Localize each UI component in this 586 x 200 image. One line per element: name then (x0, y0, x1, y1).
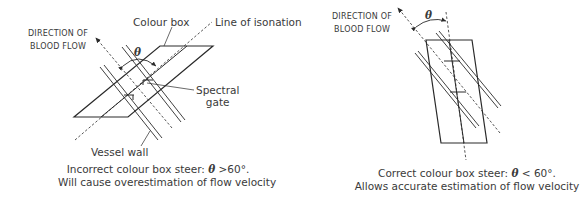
left-diagram (74, 22, 213, 146)
caption-incorrect: Incorrect colour box steer: θ >60°. Will… (58, 163, 258, 189)
direction-label-left: Direction of blood flow (28, 27, 88, 53)
theta-symbol-right: θ (425, 9, 432, 21)
theta-symbol-left: θ (134, 46, 141, 58)
right-diagram (398, 8, 501, 160)
vessel-wall-label: Vessel wall (91, 146, 148, 158)
direction-label-right: Direction of blood flow (332, 10, 392, 36)
spectral-gate-label: Spectral gate (196, 84, 239, 108)
isonation-label: Line of isonation (215, 16, 302, 28)
caption-correct: Correct colour box steer: θ < 60°. Allow… (352, 167, 582, 193)
blood-flow-direction-line-right (398, 8, 500, 133)
colour-box-label: Colour box (133, 16, 189, 28)
